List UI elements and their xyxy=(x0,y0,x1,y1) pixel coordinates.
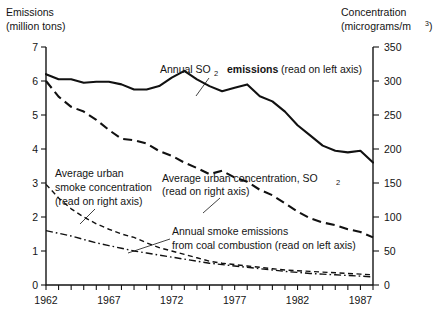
annotation-so2-concentration-text: Average urban concentration, SO xyxy=(162,172,318,184)
annotation-so2-emissions: Annual SO 2 emissions (read on left axis… xyxy=(160,63,362,96)
x-axis-ticks xyxy=(46,285,373,290)
annotation-so2-concentration-subscript: 2 xyxy=(336,178,340,187)
left-tick-label-3: 3 xyxy=(32,177,38,189)
x-axis-tick-label-1987: 1987 xyxy=(349,294,373,306)
right-axis-caption-close-paren: ) xyxy=(429,20,433,32)
right-tick-label-150: 150 xyxy=(384,177,402,189)
left-axis-tick-labels: 0 1 2 3 4 5 6 7 xyxy=(32,41,38,291)
left-tick-label-4: 4 xyxy=(32,143,38,155)
right-tick-label-350: 350 xyxy=(384,41,402,53)
right-tick-label-50: 50 xyxy=(384,245,396,257)
annotation-smoke-emissions-line2: from coal combustion (read on left axis) xyxy=(172,239,356,251)
left-tick-label-6: 6 xyxy=(32,75,38,87)
x-axis-tick-label-1967: 1967 xyxy=(97,294,121,306)
x-axis-tick-label-1972: 1972 xyxy=(160,294,184,306)
annotation-smoke-emissions: Annual smoke emissions from coal combust… xyxy=(128,225,356,253)
x-axis-tick-label-1977: 1977 xyxy=(223,294,247,306)
right-tick-label-300: 300 xyxy=(384,75,402,87)
series-line-0 xyxy=(46,71,373,163)
right-axis-tick-labels: 0 50 100 150 200 250 300 350 xyxy=(384,41,402,291)
right-tick-label-0: 0 xyxy=(384,279,390,291)
x-axis-tick-labels: 196219671972197719821987 xyxy=(34,294,372,306)
right-axis-ticks xyxy=(373,47,379,285)
left-tick-label-5: 5 xyxy=(32,109,38,121)
right-axis-caption-units: (micrograms/m xyxy=(341,20,411,32)
annotation-so2-concentration-axis-note: (read on right axis) xyxy=(162,185,250,197)
annotation-smoke-concentration: Average urban smoke concentration (read … xyxy=(55,167,152,224)
right-tick-label-250: 250 xyxy=(384,109,402,121)
right-axis-caption-line1: Concentration xyxy=(341,6,407,18)
emissions-concentration-chart: Emissions (million tons) Concentration (… xyxy=(0,0,435,310)
annotation-so2-concentration-leader xyxy=(203,198,220,213)
annotation-smoke-concentration-line2: smoke concentration xyxy=(55,181,152,193)
right-tick-label-100: 100 xyxy=(384,211,402,223)
left-tick-label-0: 0 xyxy=(32,279,38,291)
annotation-smoke-concentration-axis-note: (read on right axis) xyxy=(55,195,143,207)
annotation-so2-emissions-axis-note: (read on left axis) xyxy=(281,63,362,75)
series-line-1 xyxy=(46,81,373,237)
annotation-so2-emissions-text: Annual SO xyxy=(160,63,211,75)
left-axis-ticks xyxy=(41,47,46,285)
left-axis-caption-line1: Emissions xyxy=(6,6,54,18)
series-line-3 xyxy=(46,231,373,277)
left-axis-caption-line2: (million tons) xyxy=(6,20,66,32)
annotation-so2-concentration: Average urban concentration, SO 2 (read … xyxy=(162,172,340,213)
right-axis-caption-line2: (micrograms/m 3 ) xyxy=(341,20,433,32)
right-tick-label-200: 200 xyxy=(384,143,402,155)
annotation-smoke-emissions-line1: Annual smoke emissions xyxy=(172,225,288,237)
x-axis-tick-label-1982: 1982 xyxy=(286,294,310,306)
chart-canvas: Emissions (million tons) Concentration (… xyxy=(0,0,435,310)
left-tick-label-1: 1 xyxy=(32,245,38,257)
left-tick-label-2: 2 xyxy=(32,211,38,223)
left-tick-label-7: 7 xyxy=(32,41,38,53)
annotation-so2-emissions-emphasis: emissions xyxy=(227,63,279,75)
annotation-smoke-concentration-line1: Average urban xyxy=(55,167,124,179)
annotation-so2-emissions-subscript: 2 xyxy=(214,69,218,78)
annotation-smoke-emissions-leader xyxy=(128,239,170,253)
x-axis-tick-label-1962: 1962 xyxy=(34,294,58,306)
